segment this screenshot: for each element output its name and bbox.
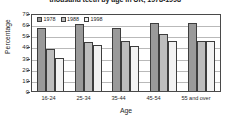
bar-group (75, 15, 102, 91)
x-axis-tick-label: 55 and over (181, 95, 210, 101)
x-axis-tick-label: 45-54 (146, 95, 160, 101)
bar-groups (32, 15, 220, 91)
x-axis-tick-label: 25-34 (76, 95, 90, 101)
legend-label: 1998 (91, 17, 103, 22)
y-axis-tickmark (27, 92, 30, 93)
chart-legend: 197819881998 (36, 16, 104, 22)
bar (130, 46, 139, 91)
bar (121, 41, 130, 91)
legend-swatch-icon (61, 17, 66, 22)
x-axis-tick-label: 16-24 (41, 95, 55, 101)
bar (197, 41, 206, 91)
legend-entry: 1988 (61, 17, 80, 22)
bar (84, 42, 93, 91)
bar (150, 23, 159, 91)
bar-group (188, 15, 215, 91)
bar (206, 41, 215, 91)
y-axis-tickmark (27, 14, 30, 15)
bar (46, 49, 55, 91)
bar (188, 23, 197, 91)
bar-group (150, 15, 177, 91)
y-axis-tickmark (27, 59, 30, 60)
bar-group (112, 15, 139, 91)
y-axis-tick-label: 70 (1, 11, 29, 17)
bar (112, 28, 121, 92)
bar (93, 45, 102, 91)
y-axis-tickmark (27, 36, 30, 37)
legend-swatch-icon (84, 17, 89, 22)
bar (159, 34, 168, 91)
y-axis-tick-label: 40 (1, 44, 29, 50)
y-axis-tick-label: 20 (1, 67, 29, 73)
x-axis-tick-labels: 16-2425-3435-4445-5455 and over (31, 95, 221, 101)
y-axis-tick-labels: 706050403020100 (0, 14, 29, 92)
y-axis-tick-label: 50 (1, 33, 29, 39)
bar (37, 28, 46, 92)
y-axis-tickmark (27, 25, 30, 26)
legend-entry: 1998 (84, 17, 103, 22)
bar (75, 24, 84, 91)
y-axis-tickmark (27, 81, 30, 82)
y-axis-tick-label: 30 (1, 56, 29, 62)
y-axis-tick-label: 60 (1, 22, 29, 28)
y-axis-tickmark (27, 47, 30, 48)
chart-title: thousand teeth by age in UK, 1978-1998 (0, 0, 230, 4)
x-axis-title: Age (31, 107, 221, 114)
legend-entry: 1978 (37, 17, 56, 22)
y-axis-tick-label: 0 (1, 89, 29, 95)
x-axis-tick-label: 35-44 (111, 95, 125, 101)
bar (55, 58, 64, 91)
plot-area (31, 14, 221, 92)
legend-label: 1978 (44, 17, 56, 22)
legend-label: 1988 (67, 17, 79, 22)
legend-swatch-icon (37, 17, 42, 22)
y-axis-tickmark (27, 70, 30, 71)
bar (168, 41, 177, 91)
y-axis-tick-label: 10 (1, 78, 29, 84)
bar-chart-figure: thousand teeth by age in UK, 1978-1998 P… (0, 0, 230, 124)
bar-group (37, 15, 64, 91)
